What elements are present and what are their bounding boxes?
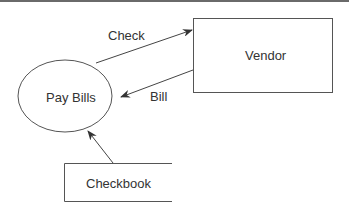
bill-edge-label: Bill	[150, 90, 167, 103]
pay-bills-label: Pay Bills	[46, 91, 96, 104]
checkbook-label: Checkbook	[86, 177, 151, 190]
vendor-label: Vendor	[245, 49, 286, 62]
diagram-canvas	[0, 0, 349, 219]
checkbook-arrow	[88, 131, 113, 163]
check-edge-label: Check	[108, 29, 145, 42]
